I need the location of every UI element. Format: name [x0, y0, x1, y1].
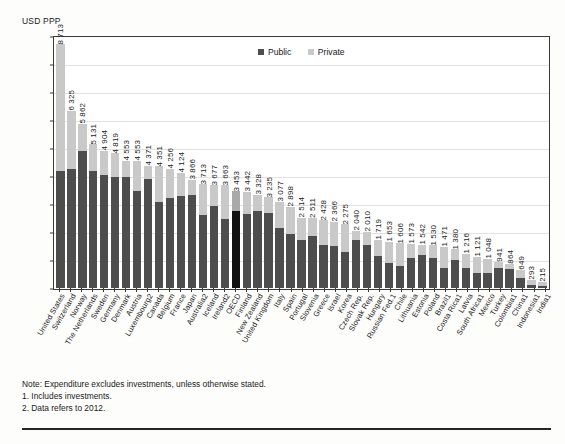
bar-stack: 2 010: [363, 232, 371, 288]
bar-stack: 2 428: [319, 220, 327, 288]
bar-value-label: 2 428: [319, 200, 328, 221]
bar-stack: 3 328: [253, 195, 261, 288]
bar-stack: 8 713: [56, 44, 64, 288]
bar-value-label: 1 380: [450, 229, 459, 250]
bar-column: 1 653: [384, 38, 395, 288]
y-axis-tick-mark: [50, 37, 54, 38]
bar-segment-private: [473, 257, 481, 273]
bar-segment-public: [232, 211, 240, 288]
bar-segment-private: [352, 231, 360, 240]
bar-segment-private: [462, 254, 470, 268]
bar-stack: 3 677: [210, 185, 218, 288]
bar-value-label: 8 713: [56, 24, 65, 45]
bar-column: 4 553: [121, 38, 132, 288]
bar-stack: 6 325: [67, 111, 75, 288]
bar-stack: 4 351: [155, 166, 163, 288]
bar-column: 3 235: [263, 38, 274, 288]
bar-segment-public: [56, 171, 64, 289]
bar-segment-private: [418, 245, 426, 255]
bar-stack: 1 471: [440, 247, 448, 288]
bar-segment-private: [133, 161, 141, 191]
bar-segment-private: [286, 207, 294, 234]
bar-segment-public: [473, 273, 481, 288]
bar-value-label: 6 325: [67, 90, 76, 111]
bar-stack: 3 453: [232, 191, 240, 288]
bar-value-label: 1 573: [406, 223, 415, 244]
bar-column: 8 713: [55, 38, 66, 288]
bar-stack: 4 124: [177, 173, 185, 288]
bar-column: 2 428: [318, 38, 329, 288]
bar-value-label: 2 010: [363, 211, 372, 232]
bar-segment-public: [67, 169, 75, 288]
bar-value-label: 1 542: [417, 224, 426, 245]
bar-column: 1 530: [427, 38, 438, 288]
bar-column: 864: [504, 38, 515, 288]
bar-column: 3 077: [274, 38, 285, 288]
bar-segment-public: [275, 228, 283, 288]
bar-segment-public: [243, 214, 251, 288]
bar-column: 6 325: [66, 38, 77, 288]
bar-column: 1 121: [471, 38, 482, 288]
bar-segment-private: [177, 173, 185, 197]
bar-segment-private: [429, 245, 437, 258]
bar-stack: 3 235: [264, 197, 272, 288]
bar-value-label: 1 653: [385, 221, 394, 242]
bar-stack: 3 713: [199, 184, 207, 288]
bar-value-label: 215: [538, 268, 547, 282]
bar-stack: 4 256: [166, 169, 174, 288]
footer-divider: [22, 428, 551, 430]
bar-column: 1 606: [395, 38, 406, 288]
y-axis-tick-mark: [50, 149, 54, 150]
bar-value-label: 3 866: [187, 159, 196, 180]
x-label-column: India1: [539, 292, 550, 364]
bar-column: 2 366: [329, 38, 340, 288]
bar-column: 3 677: [208, 38, 219, 288]
bar-column: 5 862: [77, 38, 88, 288]
bar-stack: 1 121: [473, 257, 481, 288]
bar-segment-public: [100, 175, 108, 288]
bar-value-label: 1 606: [396, 223, 405, 244]
bar-segment-private: [155, 166, 163, 202]
bar-value-label: 3 677: [209, 165, 218, 186]
bar-stack: 3 077: [275, 202, 283, 288]
y-axis-tick-mark: [50, 289, 54, 290]
bar-column: 2 511: [307, 38, 318, 288]
bar-stack: 4 553: [133, 161, 141, 288]
bar-segment-public: [308, 236, 316, 288]
bar-segment-private: [111, 153, 119, 177]
bar-stack: 1 606: [396, 243, 404, 288]
bar-stack: 3 663: [221, 185, 229, 288]
bar-column: 4 124: [175, 38, 186, 288]
bar-segment-private: [374, 240, 382, 256]
bar-segment-public: [78, 151, 86, 288]
bar-stack: 4 553: [122, 161, 130, 288]
bar-segment-private: [253, 195, 261, 211]
bar-segment-public: [440, 268, 448, 288]
bar-value-label: 3 235: [264, 177, 273, 198]
bar-stack: 2 898: [286, 207, 294, 288]
bar-stack: 3 442: [243, 192, 251, 288]
bar-segment-public: [199, 215, 207, 288]
bar-column: 3 442: [241, 38, 252, 288]
bar-column: 2 275: [340, 38, 351, 288]
bar-segment-public: [494, 268, 502, 288]
bar-column: 4 904: [99, 38, 110, 288]
bar-segment-public: [505, 269, 513, 288]
chart-notes: Note: Expenditure excludes investments, …: [22, 378, 266, 415]
bar-value-label: 2 514: [297, 197, 306, 218]
bar-stack: 4 371: [144, 166, 152, 288]
bar-stack: 941: [494, 262, 502, 288]
bar-value-label: 4 256: [166, 148, 175, 169]
bar-column: 4 371: [143, 38, 154, 288]
bar-segment-private: [221, 185, 229, 219]
bar-value-label: 2 898: [286, 186, 295, 207]
bar-value-label: 2 511: [308, 198, 317, 218]
bar-stack: 1 048: [483, 259, 491, 288]
x-axis-labels: United StatesSwitzerlandNorwayThe Nether…: [53, 292, 550, 364]
bar-value-label: 1 121: [472, 236, 481, 257]
bar-segment-private: [297, 218, 305, 241]
bar-segment-private: [385, 242, 393, 263]
bar-segment-public: [89, 171, 97, 288]
bar-value-label: 649: [516, 256, 525, 270]
bar-value-label: 1 048: [483, 238, 492, 259]
